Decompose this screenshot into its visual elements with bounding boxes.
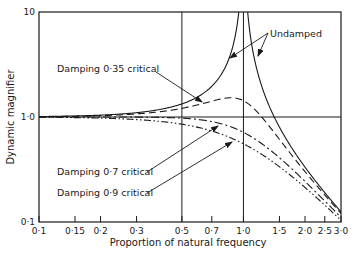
curve-solid [39, 0, 243, 117]
y-axis-title: Dynamic magnifier [5, 69, 16, 165]
x-tick-label: 1·0 [236, 226, 251, 236]
dynamic-magnifier-chart: 0·10·150·20·30·50·71·01·52·02·53·0 0·11·… [0, 0, 357, 259]
annotation-damping-09: Damping 0·9 critical [57, 187, 153, 198]
x-tick-label: 0·7 [205, 226, 219, 236]
x-axis-title: Proportion of natural frequency [110, 237, 267, 248]
annotation-damping-07: Damping 0·7 critical [57, 166, 153, 177]
arrow-damping-07 [147, 126, 218, 172]
x-axis-ticks: 0·10·150·20·30·50·71·01·52·02·53·0 [32, 216, 349, 236]
x-tick-label: 2·0 [298, 226, 313, 236]
arrow-damping-09 [147, 142, 232, 193]
annotation-undamped: Undamped [270, 28, 322, 39]
x-tick-label: 0·15 [65, 226, 85, 236]
arrow-damping-035 [156, 72, 202, 102]
y-tick-label: 0·1 [21, 217, 35, 227]
annotation-damping-035: Damping 0·35 critical [57, 63, 159, 74]
x-tick-label: 1·5 [272, 226, 286, 236]
y-tick-label: 1·0 [21, 112, 36, 122]
x-tick-label: 0·5 [175, 226, 189, 236]
x-tick-label: 3·0 [334, 226, 349, 236]
x-tick-label: 0·1 [32, 226, 46, 236]
x-tick-label: 2·5 [318, 226, 332, 236]
y-axis-ticks: 0·11·010 [21, 7, 36, 227]
x-tick-label: 0·3 [129, 226, 143, 236]
x-tick-label: 0·2 [93, 226, 107, 236]
y-tick-label: 10 [24, 7, 36, 17]
